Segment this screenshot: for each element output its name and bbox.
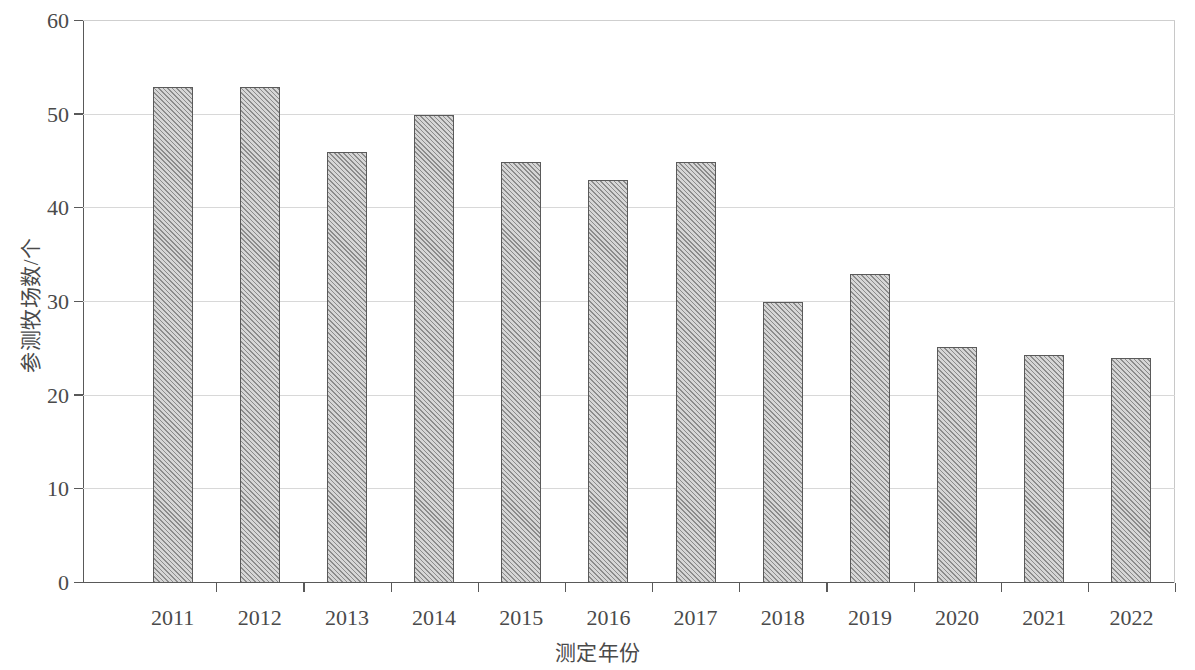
- x-tick-label: 2021: [998, 607, 1090, 629]
- y-tick-mark: [74, 582, 83, 583]
- bar: [153, 87, 193, 583]
- y-tick-label: 50: [9, 104, 69, 126]
- bar: [1024, 355, 1064, 583]
- y-tick-mark: [74, 394, 83, 395]
- x-tick-label: 2018: [737, 607, 829, 629]
- x-tick-label: 2015: [475, 607, 567, 629]
- bar: [327, 152, 367, 583]
- x-tick-mark: [478, 583, 479, 592]
- bar-chart: 参测牧场数/个 0102030405060 201120122013201420…: [0, 0, 1195, 670]
- bar: [676, 162, 716, 584]
- x-tick-label: 2020: [911, 607, 1003, 629]
- bar: [850, 274, 890, 583]
- x-tick-label: 2019: [824, 607, 916, 629]
- bar: [937, 347, 977, 583]
- x-tick-mark: [216, 583, 217, 592]
- y-tick-mark: [74, 301, 83, 302]
- y-tick-label: 0: [9, 572, 69, 594]
- y-tick-label: 60: [9, 10, 69, 32]
- x-tick-mark: [739, 583, 740, 592]
- y-tick-mark: [74, 207, 83, 208]
- y-tick-mark: [74, 20, 83, 21]
- y-axis-line: [83, 21, 84, 583]
- y-tick-label: 40: [9, 197, 69, 219]
- y-tick-mark: [74, 113, 83, 114]
- x-tick-mark: [391, 583, 392, 592]
- x-tick-mark: [1175, 583, 1176, 592]
- bar: [501, 162, 541, 584]
- gridline: [83, 20, 1175, 21]
- y-tick-label: 30: [9, 291, 69, 313]
- x-tick-mark: [652, 583, 653, 592]
- x-tick-mark: [914, 583, 915, 592]
- bar: [588, 180, 628, 583]
- x-tick-mark: [826, 583, 827, 592]
- x-tick-mark: [565, 583, 566, 592]
- y-tick-label: 20: [9, 385, 69, 407]
- plot-area: 0102030405060 20112012201320142015201620…: [83, 21, 1175, 583]
- y-tick-label: 10: [9, 478, 69, 500]
- x-tick-label: 2012: [214, 607, 306, 629]
- x-tick-label: 2016: [562, 607, 654, 629]
- bar: [240, 87, 280, 583]
- bar: [414, 115, 454, 583]
- plot-right-border: [1174, 21, 1175, 583]
- x-tick-label: 2013: [301, 607, 393, 629]
- x-tick-mark: [1088, 583, 1089, 592]
- x-tick-label: 2017: [650, 607, 742, 629]
- x-tick-mark: [303, 583, 304, 592]
- x-tick-label: 2011: [127, 607, 219, 629]
- y-tick-mark: [74, 488, 83, 489]
- x-tick-mark: [1001, 583, 1002, 592]
- x-tick-label: 2022: [1085, 607, 1177, 629]
- x-axis-title: 测定年份: [0, 636, 1195, 666]
- bar: [763, 302, 803, 583]
- x-tick-label: 2014: [388, 607, 480, 629]
- bar: [1111, 358, 1151, 583]
